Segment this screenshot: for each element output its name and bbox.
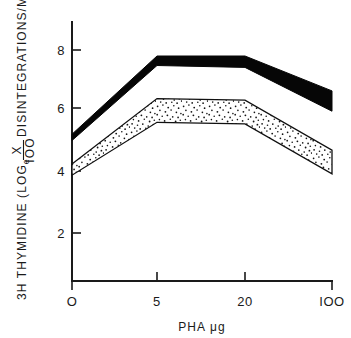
x-axis-title: PHA μg bbox=[178, 320, 226, 334]
fraction-numerator: X bbox=[10, 145, 24, 154]
figure-root: 8 6 4 2 O 5 20 IOO PHA μg 3H THYMIDINE (… bbox=[0, 0, 351, 338]
y-axis-ticks bbox=[72, 50, 81, 233]
x-tick-label-100: IOO bbox=[319, 294, 345, 309]
x-tick-label-5: 5 bbox=[153, 294, 161, 309]
y-axis-fraction-group: X IOO bbox=[10, 137, 37, 162]
y-axis-title-suffix: DISINTEGRATIONS/MIN) bbox=[15, 0, 29, 137]
y-tick-label-8: 8 bbox=[57, 43, 65, 58]
chart-canvas: 8 6 4 2 O 5 20 IOO PHA μg 3H THYMIDINE (… bbox=[0, 0, 351, 338]
fraction-denominator: IOO bbox=[23, 137, 37, 162]
y-axis-tick-labels: 8 6 4 2 bbox=[57, 43, 65, 241]
x-axis-tick-labels: O 5 20 IOO bbox=[67, 294, 345, 309]
x-tick-label-0: O bbox=[67, 294, 78, 309]
x-tick-label-20: 20 bbox=[237, 294, 253, 309]
series-band-stippled bbox=[72, 99, 332, 176]
y-axis-title-prefix: 3H THYMIDINE (LOGe bbox=[15, 158, 31, 300]
y-tick-label-6: 6 bbox=[57, 101, 65, 116]
y-tick-label-4: 4 bbox=[57, 164, 65, 179]
y-tick-label-2: 2 bbox=[57, 226, 65, 241]
